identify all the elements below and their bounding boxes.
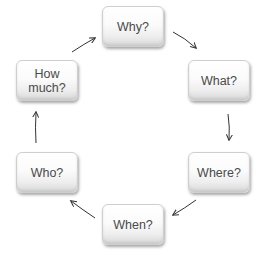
node-how-much-label: How much? <box>28 67 66 95</box>
arrow-what-to-where <box>228 114 229 140</box>
arrow-where-to-when <box>173 200 196 215</box>
node-what: What? <box>188 60 250 101</box>
node-who: Who? <box>16 152 78 193</box>
node-why: Why? <box>102 6 164 47</box>
arrow-when-to-who <box>71 201 95 218</box>
node-why-label: Why? <box>117 20 149 34</box>
node-where: Where? <box>188 152 250 193</box>
arrow-who-to-howmuch <box>36 112 37 143</box>
question-cycle-diagram: Why? What? Where? When? Who? How much? <box>0 0 262 255</box>
node-how-much: How much? <box>16 60 78 101</box>
arrow-howmuch-to-why <box>72 38 95 52</box>
arrow-why-to-what <box>173 32 196 48</box>
node-who-label: Who? <box>31 166 64 180</box>
node-when-label: When? <box>113 218 153 232</box>
node-where-label: Where? <box>197 166 241 180</box>
node-when: When? <box>102 204 164 245</box>
node-what-label: What? <box>201 74 237 88</box>
